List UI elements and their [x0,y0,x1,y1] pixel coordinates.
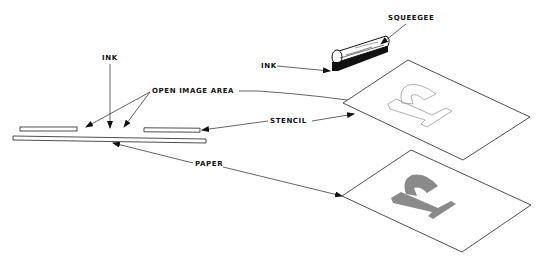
paper-arrows [113,143,342,196]
cross-section [13,127,206,143]
paper-label: PAPER [195,161,223,168]
paper-strip [13,136,206,143]
squeegee-arrow [381,24,406,44]
ink-squeegee-label: INK [261,63,277,70]
diagram-canvas [0,0,543,261]
stencil-sheet [343,60,530,160]
ink-label: INK [102,55,118,62]
paper-sheet [342,150,531,252]
screen-printing-diagram: INK OPEN IMAGE AREA STENCIL PAPER SQUEEG… [0,0,543,261]
stencil-left-bar [20,127,77,131]
squeegee-label: SQUEEGEE [388,15,434,22]
stencil-right-bar [144,128,200,132]
squeegee-illustration [332,36,389,71]
stencil-label: STENCIL [270,118,307,125]
open-image-area-arrows [86,91,388,127]
open-image-area-label: OPEN IMAGE AREA [152,88,234,95]
ink-squeegee-arrow [277,66,330,71]
